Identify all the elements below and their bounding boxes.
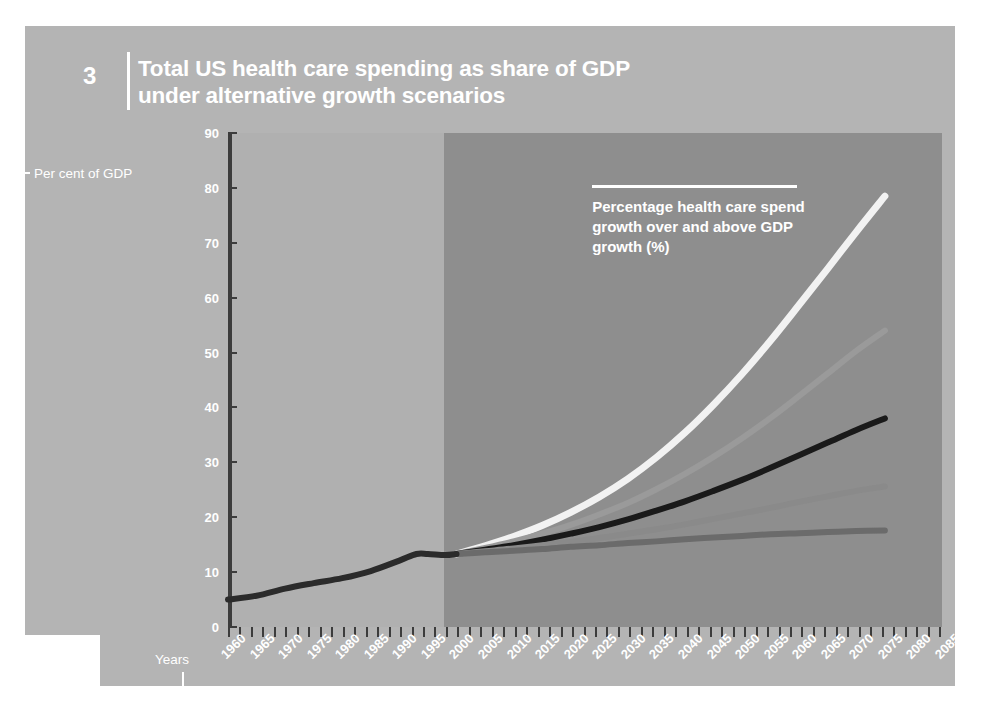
y-axis-caption: Per cent of GDP (18, 166, 132, 181)
y-axis-caption-label: Per cent of GDP (34, 166, 132, 181)
x-axis-caption: Years (155, 652, 189, 667)
y-tick-label: 50 (205, 345, 219, 360)
figure-number: 3 (60, 62, 120, 90)
figure-title: Total US health care spending as share o… (138, 55, 638, 109)
y-tick-label: 20 (205, 510, 219, 525)
series-label-2: 2 (956, 188, 964, 204)
y-tick-label: 90 (205, 126, 219, 141)
title-divider (127, 52, 130, 110)
series-label-1: 1 (956, 410, 964, 426)
y-tick-label: 60 (205, 290, 219, 305)
legend-text: Percentage health care spend growth over… (592, 197, 807, 257)
series-label-1-5: 1.5 (956, 323, 975, 339)
y-tick-label: 70 (205, 235, 219, 250)
y-tick-label: 40 (205, 400, 219, 415)
y-tick-label: 0 (212, 620, 219, 635)
plot-area: 0102030405060708090 19601965197019751980… (228, 133, 942, 627)
series-curves (228, 133, 942, 627)
y-tick-label: 30 (205, 455, 219, 470)
figure-root: 3 Total US health care spending as share… (0, 0, 983, 710)
y-axis-caption-dash (18, 172, 30, 174)
series-line-historical (228, 553, 456, 599)
legend-box: Percentage health care spend growth over… (592, 185, 807, 257)
y-tick-label: 80 (205, 180, 219, 195)
legend-rule (592, 185, 797, 188)
series-label-0-5: 0.5 (956, 478, 975, 494)
y-tick-label: 10 (205, 565, 219, 580)
series-label-0: 0 (956, 522, 964, 538)
x-axis-caption-tick (182, 672, 184, 686)
